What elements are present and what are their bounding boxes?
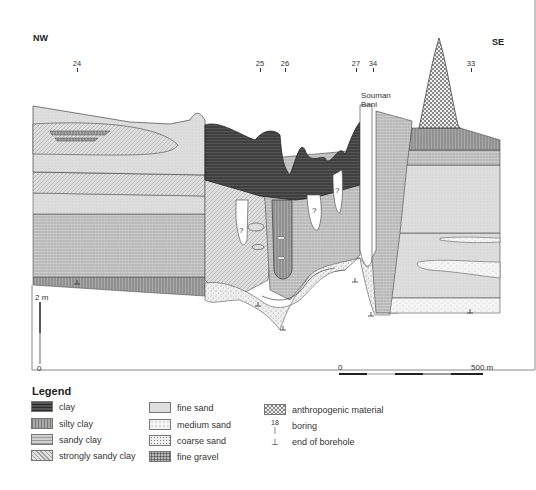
legend-item-anthropogenic: anthropogenic material xyxy=(264,403,384,416)
boring-tick-icon xyxy=(373,68,374,72)
boring-tick-icon xyxy=(77,68,78,72)
legend-item-fine-sand: fine sand xyxy=(149,401,214,414)
boring-marker: 27 xyxy=(348,60,364,72)
legend-item-end-of-borehole: ⊥ end of borehole xyxy=(264,435,355,448)
legend-item-coarse-sand: coarse sand xyxy=(149,434,226,447)
silty-clay-swatch-icon xyxy=(31,418,53,429)
boring-tick-icon xyxy=(356,68,357,72)
sandy-clay-swatch-icon xyxy=(31,434,53,445)
legend-item-silty-clay: silty clay xyxy=(31,417,93,430)
end-of-borehole-icon: ⊥ xyxy=(264,437,286,447)
boring-tick-icon xyxy=(285,68,286,72)
fine-gravel-swatch-icon xyxy=(149,451,171,462)
legend-item-strongly-sandy-clay: strongly sandy clay xyxy=(31,449,136,462)
boring-marker: 34 xyxy=(365,60,381,72)
vertical-scale-top: 2 m xyxy=(35,293,48,302)
unknown-marker: ? xyxy=(335,186,339,195)
legend-item-medium-sand: medium sand xyxy=(149,418,231,431)
direction-nw: NW xyxy=(33,33,48,43)
boring-marker: 33 xyxy=(463,60,479,72)
horizontal-scale-end: 500 m xyxy=(471,363,493,372)
medium-sand-swatch-icon xyxy=(149,419,171,430)
fine-sand-swatch-icon xyxy=(149,402,171,413)
horizontal-scale-bar xyxy=(339,373,483,375)
river-label: Souman Bani xyxy=(361,91,391,109)
coarse-sand-swatch-icon xyxy=(149,435,171,446)
legend-item-boring: 18| boring xyxy=(264,418,317,434)
legend-item-clay: clay xyxy=(31,400,75,413)
legend-item-sandy-clay: sandy clay xyxy=(31,433,102,446)
boring-tick-icon xyxy=(260,68,261,72)
boring-symbol-icon: 18| xyxy=(264,419,286,433)
direction-se: SE xyxy=(492,37,504,47)
unknown-marker: ? xyxy=(239,226,243,235)
horizontal-scale-start: 0 xyxy=(338,363,342,372)
boring-tick-icon xyxy=(471,68,472,72)
clay-swatch-icon xyxy=(31,401,53,412)
boring-marker: 24 xyxy=(69,60,85,72)
vertical-scale-bottom: 0 xyxy=(37,364,41,373)
boring-marker: 26 xyxy=(277,60,293,72)
strongly-sandy-clay-swatch-icon xyxy=(31,450,53,461)
legend-title: Legend xyxy=(32,385,71,397)
boring-marker: 25 xyxy=(252,60,268,72)
anthropogenic-swatch-icon xyxy=(264,404,286,415)
legend-item-fine-gravel: fine gravel xyxy=(149,450,219,463)
unknown-marker: ? xyxy=(312,206,316,215)
